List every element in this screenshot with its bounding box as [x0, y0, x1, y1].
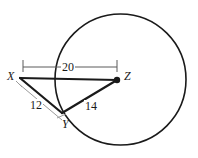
vertex-label-X: X [7, 70, 14, 82]
geometry-figure: X Y Z 20 12 14 [0, 0, 198, 158]
figure-canvas [0, 0, 198, 158]
measure-label-YZ: 14 [84, 100, 98, 112]
vertex-label-Z: Z [124, 70, 131, 82]
segment-XZ [20, 78, 117, 80]
measure-label-XZ: 20 [61, 61, 75, 73]
vertex-label-Y: Y [62, 118, 69, 130]
vertex-dot-Z [114, 77, 120, 83]
measure-label-XY: 12 [29, 99, 43, 111]
